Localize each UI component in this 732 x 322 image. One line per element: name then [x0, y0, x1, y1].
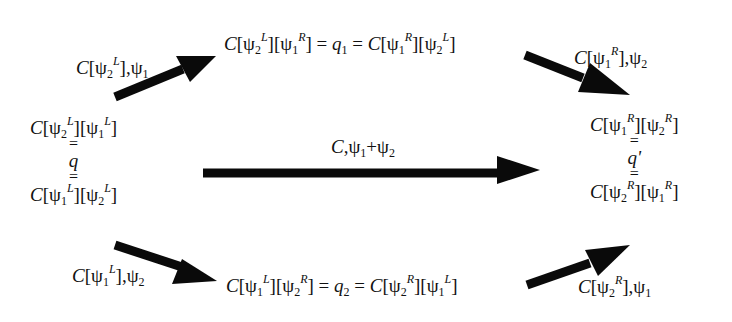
edge-label-left-to-top: C[ψ2L],ψ1	[76, 58, 149, 77]
edge-label-top-to-right: C[ψ1R],ψ2	[574, 48, 647, 67]
edge-label-left-to-right: C,ψ1+ψ2	[331, 137, 395, 156]
node-right-bottom: C[ψ2R][ψ1R]	[590, 182, 679, 201]
arrow-left-to-right	[203, 156, 540, 184]
node-right: C[ψ1R][ψ2R] = q' = C[ψ2R][ψ1R]	[590, 115, 679, 201]
node-top-middle: C[ψ2L][ψ1R] = q1 = C[ψ1R][ψ2L]	[224, 34, 456, 53]
node-bottom-middle: C[ψ1L][ψ2R] = q2 = C[ψ2R][ψ1L]	[226, 276, 458, 295]
edge-label-left-to-bottom: C[ψ1L],ψ2	[72, 266, 145, 285]
equals-sign: =	[590, 134, 679, 148]
node-left-bottom: C[ψ1L][ψ2L]	[30, 185, 117, 204]
edge-label-bottom-to-right: C[ψ2R],ψ1	[578, 277, 651, 296]
node-left: C[ψ2L][ψ1L] = q = C[ψ1L][ψ2L]	[30, 118, 117, 204]
